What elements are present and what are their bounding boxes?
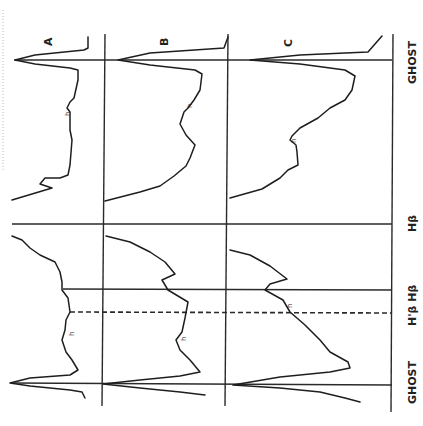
trace-b-lower [103,236,205,395]
spectral-tracings-figure: h h h h h h A B C GHOST Hβ H'β Hβ GHOST [0,0,423,426]
ghost-bottom-line [12,383,392,385]
label-h-prime-beta-pair: H'β Hβ [406,285,419,326]
panel-divider-ab [102,34,105,406]
h-prime-beta-dashed-line [70,312,392,313]
feature-marker-c-top: h [290,139,298,143]
label-ghost-bottom: GHOST [406,360,419,404]
feature-marker-a-top: h [64,112,72,116]
feature-marker-c-bottom: h [286,304,294,308]
h-beta-line-lower [63,289,392,290]
panel-label-a: A [42,37,55,46]
label-h-beta: Hβ [406,215,419,232]
feature-marker-a-bottom: h [68,332,76,336]
trace-c-lower [230,250,360,402]
trace-b [105,37,228,201]
feature-marker-b-bottom: h [180,337,188,341]
trace-a-lower [10,236,85,398]
panel-label-c: C [282,39,295,47]
trace-a [12,37,88,200]
right-axis-line [391,34,393,412]
panel-divider-bc [225,34,228,406]
label-ghost-top: GHOST [406,40,419,84]
feature-marker-b-top: h [186,104,194,108]
panel-label-b: B [158,38,171,46]
